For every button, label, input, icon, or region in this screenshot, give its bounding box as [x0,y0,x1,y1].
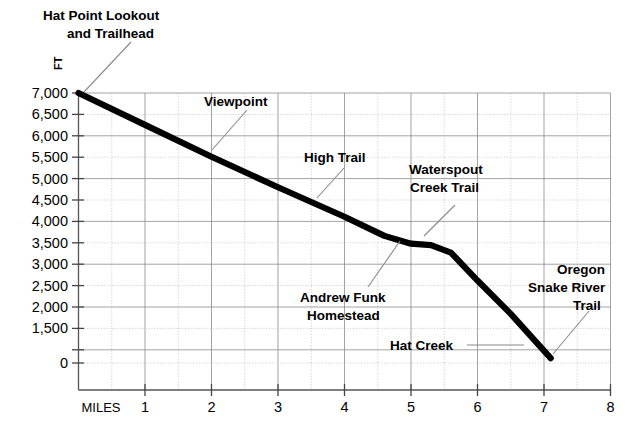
x-tick-label: 1 [141,399,149,415]
annotation-label: Homestead [307,308,380,323]
annotation-viewpoint: Viewpoint [204,94,268,109]
annotation-high-trail: High Trail [304,150,366,165]
annotation-label: Oregon [557,262,605,277]
annotation-hat-point-lookout: Hat Point Lookout and Trailhead [43,8,160,41]
leader-waterspout [424,205,455,236]
x-tick-labels: 1 2 3 4 5 6 7 8 [141,399,615,415]
x-tick-label: 6 [473,399,481,415]
y-tick-label: 0 [60,355,68,371]
annotation-label: Hat Point Lookout [43,8,160,23]
y-tick-label: 5,500 [32,149,68,165]
x-tick-label: 7 [540,399,548,415]
x-tick-label: 8 [606,399,614,415]
y-tick-label: 4,500 [32,192,68,208]
annotation-label: Creek Trail [410,180,479,195]
x-axis-unit-label: MILES [81,400,120,415]
y-tick-labels: 7,000 6,500 6,000 5,500 5,000 4,500 4,00… [32,85,68,371]
x-tick-label: 5 [407,399,415,415]
y-tick-label: 7,000 [32,85,68,101]
y-tick-label: 6,000 [32,128,68,144]
annotation-label: Waterspout [409,162,483,177]
leader-viewpoint [212,110,247,150]
y-axis-unit-label: FT [52,56,64,70]
x-tick-label: 4 [340,399,348,415]
y-tick-label: 3,500 [32,235,68,251]
leader-oregon [553,311,589,354]
y-tick-label: 3,000 [32,256,68,272]
y-tick-label: 4,000 [32,213,68,229]
y-tick-label: 5,000 [32,171,68,187]
elevation-profile-chart: FT 7,000 6,500 6,000 5,500 5,000 4,500 4… [0,0,641,435]
annotation-label: Andrew Funk [300,290,386,305]
annotation-label: Trail [573,298,601,313]
annotation-label: Snake River [528,280,606,295]
y-tick-label: 2,000 [32,299,68,315]
annotation-andrew-funk-homestead: Andrew Funk Homestead [300,290,386,323]
y-tick-label: 1,500 [32,320,68,336]
annotation-oregon-snake-river-trail: Oregon Snake River Trail [528,262,606,313]
x-tick-label: 3 [274,399,282,415]
x-tick-label: 2 [207,399,215,415]
y-tick-label: 2,500 [32,278,68,294]
chart-svg: FT 7,000 6,500 6,000 5,500 5,000 4,500 4… [0,0,641,435]
leader-high-trail [317,168,344,198]
y-tick-label: 6,500 [32,106,68,122]
annotation-label: and Trailhead [67,26,154,41]
leader-hat-point [84,42,131,92]
annotation-hat-creek: Hat Creek [390,338,454,353]
